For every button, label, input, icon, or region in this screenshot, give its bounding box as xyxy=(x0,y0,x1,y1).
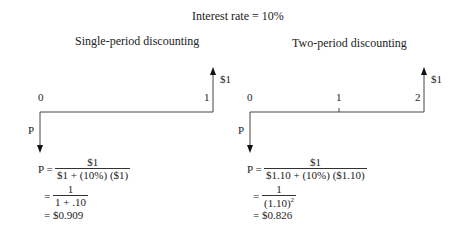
time-label-1: 1 xyxy=(204,91,210,103)
time-label-1: 1 xyxy=(336,91,342,103)
equation-equals: = xyxy=(253,190,259,202)
fraction-denominator: $1.10 + (10%) ($1.10) xyxy=(264,168,367,181)
present-value-label: P xyxy=(28,124,34,136)
up-arrowhead-icon xyxy=(210,67,216,75)
cash-in-label: $1 xyxy=(220,73,231,85)
fraction-numerator: $1 xyxy=(55,156,130,168)
equation-result: = $0.826 xyxy=(253,209,292,221)
fraction-numerator: 1 xyxy=(262,183,296,195)
equation-fraction-2: 1 1 + .10 xyxy=(53,183,88,208)
equation-equals: = xyxy=(44,190,50,202)
down-arrowhead-icon xyxy=(247,145,253,153)
time-label-2: 2 xyxy=(415,91,421,103)
equation-fraction-2: 1 (1.10)2 xyxy=(262,183,296,209)
down-arrowhead-icon xyxy=(37,145,43,153)
fraction-numerator: $1 xyxy=(264,156,367,168)
up-arrowhead-icon xyxy=(421,67,427,75)
equation-fraction-1: $1 $1 + (10%) ($1) xyxy=(55,156,130,181)
fraction-denominator: (1.10)2 xyxy=(262,195,296,209)
present-value-label: P xyxy=(238,124,244,136)
fraction-denominator: 1 + .10 xyxy=(53,195,88,208)
time-label-0: 0 xyxy=(38,91,44,103)
fraction-numerator: 1 xyxy=(53,183,88,195)
fraction-denominator: $1 + (10%) ($1) xyxy=(55,168,130,181)
time-label-0: 0 xyxy=(247,91,253,103)
cash-in-label: $1 xyxy=(431,73,442,85)
equation-result: = $0.909 xyxy=(44,209,83,221)
equation-lhs: P = xyxy=(38,163,53,175)
equation-lhs: P = xyxy=(247,163,262,175)
equation-fraction-1: $1 $1.10 + (10%) ($1.10) xyxy=(264,156,367,181)
denominator-base: (1.10) xyxy=(264,197,291,209)
denominator-exponent: 2 xyxy=(291,196,295,204)
